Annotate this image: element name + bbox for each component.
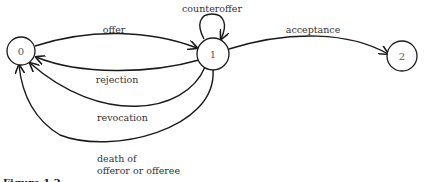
edge-rejection <box>36 57 199 71</box>
edge-offer <box>35 33 197 48</box>
node-label: 1 <box>210 49 216 60</box>
label-rejection: rejection <box>96 74 139 85</box>
label-death-line2: offeror or offeree <box>97 165 180 176</box>
edge-counteroffer <box>200 14 225 39</box>
edge-acceptance <box>229 36 388 54</box>
state-node-2: 2 <box>387 41 417 71</box>
label-revocation: revocation <box>97 112 148 123</box>
label-counteroffer: counteroffer <box>182 3 242 14</box>
state-node-1: 1 <box>197 38 229 70</box>
node-label: 0 <box>18 46 24 57</box>
label-death-line1: death of <box>97 153 138 164</box>
label-acceptance: acceptance <box>286 24 341 35</box>
state-node-0: 0 <box>7 37 35 65</box>
label-offer: offer <box>103 24 126 35</box>
node-label: 2 <box>399 51 405 62</box>
state-diagram: 0 1 2 offer counteroffer acceptance reje… <box>0 0 424 182</box>
figure-caption: Figure 1.2 <box>3 177 61 182</box>
